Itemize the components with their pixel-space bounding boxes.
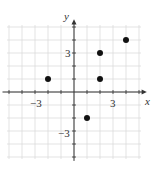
y-axis-label: y bbox=[63, 10, 69, 22]
data-point bbox=[45, 76, 51, 82]
x-axis-label: x bbox=[144, 95, 150, 107]
data-point bbox=[97, 76, 103, 82]
data-point bbox=[97, 50, 103, 56]
x-tick-label-3: 3 bbox=[110, 97, 116, 109]
scatter-plot: y x −3 3 3 −3 bbox=[0, 0, 159, 170]
y-tick-label-neg3: −3 bbox=[58, 127, 70, 139]
data-point bbox=[123, 37, 129, 43]
data-point bbox=[84, 115, 90, 121]
x-tick-label-neg3: −3 bbox=[30, 97, 42, 109]
y-tick-label-3: 3 bbox=[65, 47, 71, 59]
